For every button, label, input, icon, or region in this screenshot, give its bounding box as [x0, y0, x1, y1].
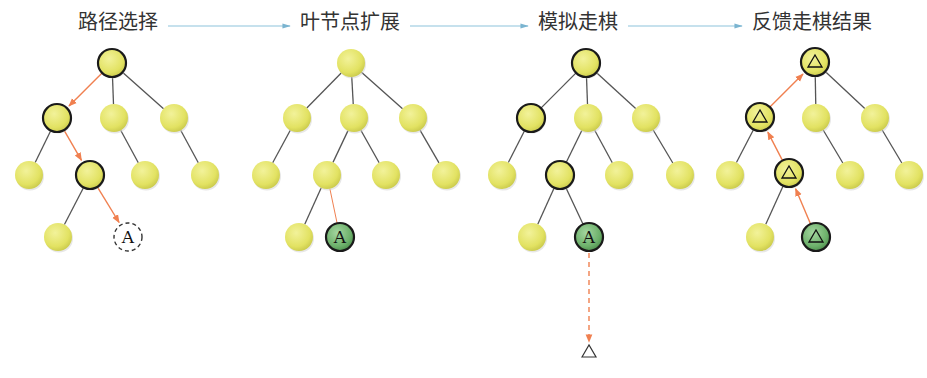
tree-node	[191, 161, 220, 191]
tree-node	[517, 104, 546, 134]
tree-node	[372, 161, 401, 191]
tree-edge	[538, 188, 554, 224]
tree-node	[100, 104, 129, 134]
tree-node	[836, 161, 865, 191]
selection-path-arrow	[97, 187, 119, 223]
tree-edge	[361, 72, 402, 108]
step-title-selection: 路径选择	[78, 8, 158, 36]
tree-node	[131, 161, 160, 191]
tree-node	[746, 223, 775, 253]
tree-edge	[64, 187, 83, 224]
tree-edge	[653, 130, 673, 163]
nodes-simulation: A	[488, 49, 695, 253]
expanded-leaf-node	[802, 223, 830, 251]
backprop-arrow	[770, 74, 803, 107]
tree-node	[746, 103, 775, 133]
tree-node	[572, 49, 601, 79]
tree-edge	[815, 76, 816, 104]
tree-edge	[823, 130, 843, 163]
tree-node	[574, 104, 603, 134]
tree-edge	[596, 72, 635, 108]
tree-edge	[307, 73, 341, 108]
candidate-leaf-node: A	[114, 223, 142, 251]
tree-edge	[825, 72, 865, 109]
tree-node	[15, 161, 44, 191]
tree-node	[488, 161, 517, 191]
tree-edge	[566, 188, 583, 225]
node-label: A	[333, 227, 347, 247]
tree-node	[716, 161, 745, 191]
tree-selection	[35, 72, 198, 224]
expanded-leaf-node: A	[326, 223, 354, 251]
step-title-simulation: 模拟走棋	[538, 8, 618, 36]
tree-node	[76, 161, 105, 191]
tree-node	[283, 104, 312, 134]
tree-edge	[121, 130, 139, 162]
tree-edge	[35, 131, 51, 163]
tree-node	[775, 159, 804, 189]
tree-nodes: AAA	[15, 48, 924, 253]
nodes-expansion: A	[252, 49, 461, 253]
selection-path-arrow	[69, 73, 102, 106]
step-title-expansion: 叶节点扩展	[300, 8, 400, 36]
tree-node	[98, 49, 127, 79]
tree-node	[313, 161, 342, 191]
tree-edge	[736, 129, 753, 162]
tree-edge	[113, 77, 114, 104]
tree-node	[285, 223, 314, 253]
tree-node	[337, 49, 366, 79]
tree-node	[895, 161, 924, 191]
tree-node	[432, 161, 461, 191]
expansion-edge	[330, 189, 337, 224]
expanded-leaf-node: A	[575, 223, 603, 251]
tree-node	[605, 161, 634, 191]
tree-edge	[273, 130, 291, 162]
tree-node	[518, 223, 547, 253]
tree-edge	[595, 130, 613, 162]
tree-edge	[541, 73, 576, 108]
tree-node	[546, 161, 575, 191]
tree-node	[632, 104, 661, 134]
tree-edge	[882, 130, 902, 163]
tree-edge	[352, 77, 353, 104]
tree-node	[44, 223, 73, 253]
tree-node	[43, 104, 72, 134]
tree-edge	[420, 130, 439, 163]
tree-edge	[766, 186, 783, 224]
tree-node	[802, 104, 831, 134]
step-title-backpropagation: 反馈走棋结果	[752, 8, 872, 36]
nodes-backpropagation	[716, 48, 924, 253]
tree-edge	[587, 77, 588, 104]
tree-node	[801, 48, 830, 78]
tree-node	[252, 161, 281, 191]
tree-node	[399, 104, 428, 134]
tree-edge	[566, 131, 582, 163]
tree-backpropagation	[736, 72, 901, 225]
node-label: A	[582, 227, 596, 247]
tree-edge	[333, 131, 348, 163]
tree-node	[666, 161, 695, 191]
node-label: A	[121, 227, 135, 247]
tree-node	[340, 104, 369, 134]
mcts-diagram: AAA	[0, 0, 927, 378]
tree-node	[160, 104, 189, 134]
tree-edge	[122, 72, 163, 108]
backprop-arrow	[796, 189, 811, 224]
tree-edge	[305, 188, 321, 224]
tree-edge	[361, 130, 379, 163]
tree-expansion	[273, 72, 439, 224]
tree-edge	[181, 130, 199, 162]
selection-path-arrow	[64, 130, 81, 160]
rollout-result-triangle-icon	[582, 345, 596, 357]
tree-node	[861, 104, 890, 134]
tree-edge	[508, 130, 524, 162]
backprop-arrow	[768, 132, 783, 160]
nodes-selection: A	[15, 49, 220, 253]
